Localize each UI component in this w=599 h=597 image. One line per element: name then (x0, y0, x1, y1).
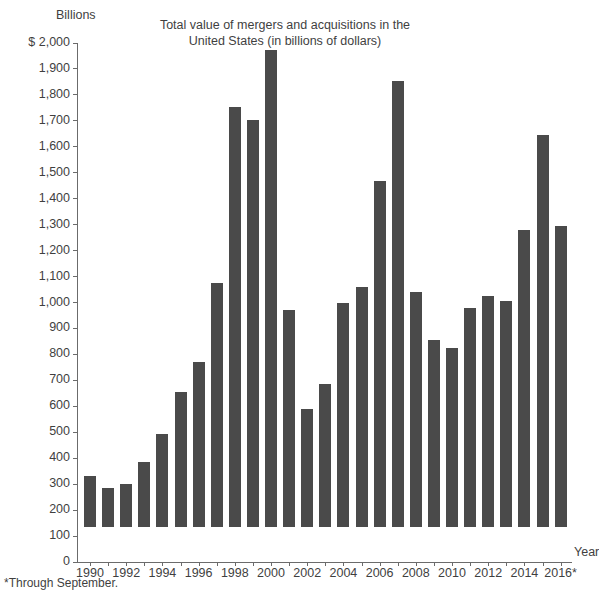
bar (500, 301, 512, 527)
x-axis-tick-label: 2000 (257, 566, 285, 580)
bar (555, 226, 567, 527)
y-axis-tick-label: 1,100 (39, 269, 70, 283)
chart-footnote: *Through September. (4, 576, 118, 590)
bar-chart: Billions Total value of mergers and acqu… (0, 0, 599, 597)
bar (193, 362, 205, 527)
bar (319, 384, 331, 527)
x-axis-tick-label: 2002 (293, 566, 321, 580)
bar (464, 308, 476, 527)
y-axis-tick-label: 700 (49, 372, 70, 386)
x-axis-tick-label: 1998 (221, 566, 249, 580)
y-axis-tick-label: $ 2,000 (28, 35, 70, 49)
bar (102, 488, 114, 527)
bar (211, 283, 223, 527)
bar (374, 181, 386, 527)
bar (301, 409, 313, 527)
bar (392, 81, 404, 527)
y-axis-tick-label: 200 (49, 502, 70, 516)
y-axis-tick-label: 1,000 (39, 295, 70, 309)
bar (337, 303, 349, 527)
bar (283, 310, 295, 527)
y-axis-tick-labels: $ 2,0001,9001,8001,7001,6001,5001,4001,3… (0, 0, 78, 597)
bar (265, 50, 277, 527)
y-axis-tick-label: 1,400 (39, 191, 70, 205)
x-axis-tick-label: 2012 (474, 566, 502, 580)
bar (156, 434, 168, 527)
x-axis-tick-label: 2008 (402, 566, 430, 580)
x-axis-tick-label: 1996 (185, 566, 213, 580)
y-axis-tick-label: 600 (49, 398, 70, 412)
y-axis-tick-label: 1,300 (39, 217, 70, 231)
bar (138, 462, 150, 527)
bar (120, 484, 132, 527)
y-axis-tick-label: 900 (49, 320, 70, 334)
y-axis-tick-label: 500 (49, 424, 70, 438)
y-axis-tick-label: 1,200 (39, 243, 70, 257)
y-axis-tick-label: 1,500 (39, 165, 70, 179)
bar-series (78, 0, 572, 562)
y-axis-tick-label: 100 (49, 528, 70, 542)
bar (537, 135, 549, 527)
y-axis-tick-label: 1,900 (39, 61, 70, 75)
y-axis-tick-label: 300 (49, 476, 70, 490)
bar (518, 230, 530, 527)
x-axis-tick-label: 2004 (329, 566, 357, 580)
x-axis-tick-label: 2010 (438, 566, 466, 580)
bar (428, 340, 440, 527)
bar (84, 476, 96, 527)
bar (247, 120, 259, 527)
y-axis-tick-label: 400 (49, 450, 70, 464)
y-axis-tick-label: 800 (49, 346, 70, 360)
x-axis-tick-label: 2016* (544, 566, 577, 580)
bar (410, 292, 422, 527)
bar (446, 348, 458, 527)
bar (356, 287, 368, 527)
y-axis-tick-label: 1,700 (39, 113, 70, 127)
bar (482, 296, 494, 527)
y-axis-tick-label: 1,800 (39, 87, 70, 101)
x-axis-title: Year (574, 545, 599, 559)
x-axis-tick-label: 2014 (510, 566, 538, 580)
x-axis-tick-label: 1994 (148, 566, 176, 580)
y-axis-tick-label: 1,600 (39, 139, 70, 153)
bar (175, 392, 187, 527)
x-axis-tick-label: 2006 (366, 566, 394, 580)
bar (229, 107, 241, 527)
